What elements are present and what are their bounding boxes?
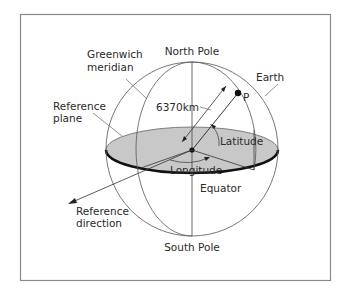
- longitude-label: Longitude: [170, 164, 222, 176]
- greenwich-label-2: meridian: [87, 61, 134, 73]
- south-pole-label: South Pole: [164, 241, 220, 253]
- north-pole-label: North Pole: [165, 45, 219, 57]
- greenwich-label-1: Greenwich: [87, 48, 143, 60]
- equator-label: Equator: [200, 182, 242, 194]
- reference-plane-label-2: plane: [53, 112, 82, 124]
- radius-label: 6370km: [156, 101, 199, 113]
- reference-plane-label-1: Reference: [53, 100, 106, 112]
- reference-direction-label-2: direction: [76, 217, 122, 229]
- point-p: [235, 90, 241, 96]
- reference-direction-label-1: Reference: [76, 205, 129, 217]
- earth-diagram: North Pole South Pole Greenwich meridian…: [0, 0, 348, 291]
- latitude-label: Latitude: [220, 135, 263, 147]
- earth-label: Earth: [256, 71, 284, 83]
- point-p-label: P: [243, 91, 249, 103]
